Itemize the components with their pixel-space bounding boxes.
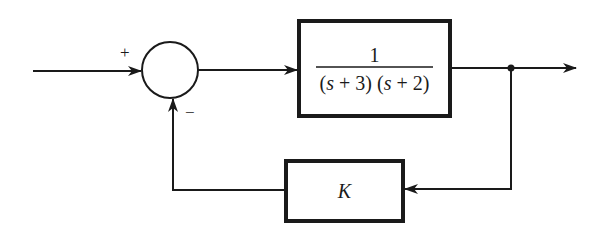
- summing-junction: [142, 42, 198, 98]
- feedback-gain-label: K: [285, 160, 404, 222]
- minus-sign: −: [185, 104, 195, 121]
- forward-transfer-function: 1 (s + 3) (s + 2): [298, 20, 451, 117]
- transfer-function-numerator: 1: [370, 44, 380, 66]
- transfer-function-denominator: (s + 3) (s + 2): [320, 72, 430, 94]
- plus-sign: +: [120, 44, 130, 61]
- den-part: + 2): [391, 72, 429, 94]
- den-part: + 3) (: [334, 72, 384, 94]
- den-var-s: s: [326, 72, 334, 94]
